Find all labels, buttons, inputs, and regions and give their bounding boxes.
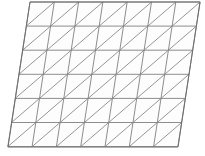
triangular-mesh-diagram (0, 0, 205, 156)
figure-root (0, 0, 205, 156)
